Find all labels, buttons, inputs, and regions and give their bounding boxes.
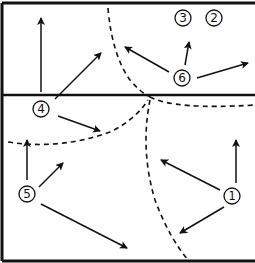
player-3: 3 [175,10,191,26]
player-number: 5 [23,187,31,201]
player-2: 2 [206,10,222,26]
court-outline [2,3,255,261]
player-number: 6 [178,71,186,85]
player-number: 4 [37,102,45,116]
dashed-back-right-boundary [146,100,190,262]
arrow-icon [197,63,248,78]
player-number: 1 [228,189,236,203]
player-number: 3 [179,11,187,25]
zone-boundaries [8,8,255,262]
player-5: 5 [19,186,35,202]
arrow-icon [55,53,101,99]
arrow-icon [180,207,224,233]
arrow-icon [161,160,220,190]
court-diagram: 123456 [0,0,255,263]
arrow-icon [185,42,189,65]
player-6: 6 [174,70,190,86]
player-1: 1 [224,188,240,204]
arrow-icon [125,47,169,72]
player-number: 2 [210,11,218,25]
movement-arrows [27,18,248,248]
dashed-back-left-boundary [8,100,148,144]
arrow-icon [39,163,63,187]
dashed-net-right-boundary [150,97,255,106]
dashed-upper-left-boundary [108,8,150,97]
arrow-icon [41,204,127,248]
player-4: 4 [33,101,49,117]
arrow-icon [58,116,100,131]
